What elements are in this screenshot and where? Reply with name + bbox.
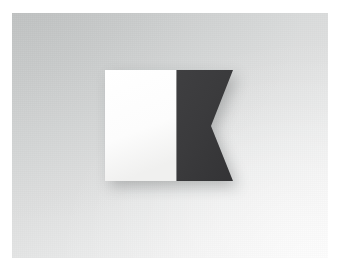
flag-blue-swallowtail xyxy=(177,70,234,181)
flag-body xyxy=(105,70,233,181)
photograph-canvas xyxy=(12,13,328,258)
signal-flag-alpha xyxy=(105,70,233,181)
photo-bottom-border xyxy=(0,260,341,280)
photo-frame xyxy=(0,0,341,280)
flag-white-panel xyxy=(105,70,177,181)
